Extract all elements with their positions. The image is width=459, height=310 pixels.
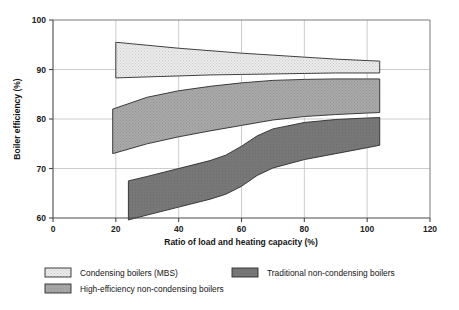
legend-swatch-0 [45,268,71,277]
y-tick-label: 80 [37,114,47,124]
chart-legend: Condensing boilers (MBS)Traditional non-… [45,268,395,294]
x-tick-label: 20 [111,224,121,234]
y-tick-label: 70 [37,164,47,174]
x-tick-label: 80 [300,224,310,234]
x-tick-label: 60 [237,224,247,234]
x-tick-label: 0 [51,224,56,234]
y-axis-ticks: 60708090100 [32,15,53,223]
x-tick-label: 100 [360,224,374,234]
x-axis-ticks: 020406080100120 [51,218,438,234]
x-tick-label: 120 [423,224,437,234]
legend-label-0: Condensing boilers (MBS) [80,268,178,278]
legend-label-1: Traditional non-condensing boilers [267,268,395,278]
y-tick-label: 90 [37,65,47,75]
legend-swatch-2 [45,284,71,293]
x-axis-title: Ratio of load and heating capacity (%) [164,237,318,247]
legend-label-2: High-efficiency non-condensing boilers [80,284,224,294]
legend-swatch-1 [232,268,258,277]
y-tick-label: 100 [32,15,46,25]
y-tick-label: 60 [37,213,47,223]
y-axis-title: Boiler efficiency (%) [12,78,22,159]
x-tick-label: 40 [174,224,184,234]
boiler-efficiency-chart: 020406080100120 60708090100 Ratio of loa… [0,0,459,310]
